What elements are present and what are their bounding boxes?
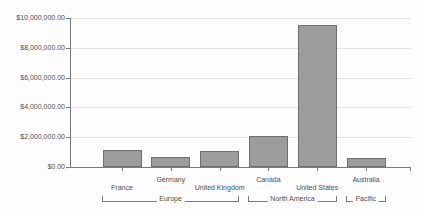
group-bracket-left-tick: [102, 196, 103, 202]
group-bracket-right-tick: [336, 196, 337, 202]
group-label: Europe: [156, 194, 185, 203]
x-axis-end-tick: [410, 168, 411, 171]
bar-united-states: [298, 25, 337, 167]
x-axis-category-label: United States: [277, 184, 357, 192]
group-bracket-north-america: North America: [248, 196, 336, 202]
x-axis-category-label: Canada: [228, 176, 308, 184]
group-bracket-left-tick: [346, 196, 347, 202]
bar-canada: [249, 136, 288, 167]
x-axis-tick: [220, 168, 221, 171]
x-axis-tick: [268, 168, 269, 171]
bar-united-kingdom: [200, 151, 239, 167]
x-axis-category-label: France: [82, 184, 162, 192]
bar-germany: [151, 157, 190, 167]
y-axis-tick-label: $0.00: [0, 163, 65, 171]
x-axis-tick: [366, 168, 367, 171]
gridline: [71, 137, 411, 138]
group-bracket-europe: Europe: [102, 196, 239, 202]
y-axis-line: [70, 18, 71, 168]
gridline: [71, 48, 411, 49]
group-bracket-right-tick: [385, 196, 386, 202]
gridline: [71, 107, 411, 108]
gridline: [71, 18, 411, 19]
x-axis-tick: [122, 168, 123, 171]
group-label: North America: [267, 194, 317, 203]
group-label: Pacific: [352, 194, 379, 203]
bar-france: [103, 150, 142, 167]
y-axis-tick-label: $6,000,000.00: [0, 74, 65, 82]
group-bracket-right-tick: [238, 196, 239, 202]
x-axis-tick: [317, 168, 318, 171]
x-axis-category-label: United Kingdom: [180, 184, 260, 192]
y-axis-tick-label: $4,000,000.00: [0, 103, 65, 111]
y-axis-tick-label: $10,000,000.00: [0, 14, 65, 22]
group-bracket-left-tick: [248, 196, 249, 202]
x-axis-tick: [171, 168, 172, 171]
y-axis-tick-label: $2,000,000.00: [0, 133, 65, 141]
x-axis-category-label: Australia: [326, 176, 406, 184]
grouped-bar-chart: $0.00$2,000,000.00$4,000,000.00$6,000,00…: [0, 0, 424, 216]
y-axis-tick-label: $8,000,000.00: [0, 44, 65, 52]
bar-australia: [347, 158, 386, 167]
gridline: [71, 78, 411, 79]
group-bracket-pacific: Pacific: [346, 196, 386, 202]
x-axis-category-label: Germany: [131, 176, 211, 184]
